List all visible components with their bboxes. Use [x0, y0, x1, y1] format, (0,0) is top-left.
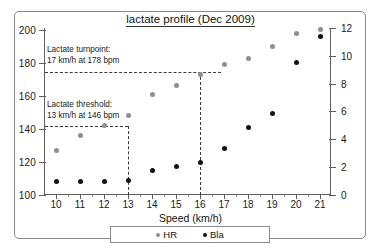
turnpoint-vertical-dashed-line: [200, 72, 201, 195]
legend-item-hr: HR: [156, 229, 177, 240]
y-right-tick: [329, 167, 336, 168]
y-left-tick: [39, 129, 46, 130]
data-point-hr: [222, 62, 227, 67]
chart-legend: HR Bla: [110, 226, 270, 243]
legend-label-bla: Bla: [210, 229, 224, 240]
x-axis-label: 19: [260, 199, 284, 210]
x-axis-minor-tick: [116, 194, 117, 197]
x-axis-label: 18: [236, 199, 260, 210]
y-left-tick: [39, 96, 46, 97]
x-axis-minor-tick: [308, 194, 309, 197]
data-point-hr: [102, 123, 107, 128]
y-right-label: 0: [341, 190, 361, 201]
threshold-vertical-dashed-line: [128, 126, 129, 195]
threshold-horizontal-dashed-line: [45, 126, 128, 127]
legend-item-bla: Bla: [203, 229, 224, 240]
data-point-hr: [78, 133, 83, 138]
x-axis-label: 10: [44, 199, 68, 210]
data-point-hr: [198, 72, 203, 77]
y-left-label: 160: [2, 91, 36, 102]
x-axis-label: 11: [68, 199, 92, 210]
x-axis-minor-tick: [212, 194, 213, 197]
chart-plot-area: lactate profile (Dec 2009) 100 120 140 1…: [0, 0, 381, 252]
data-point-hr: [150, 92, 155, 97]
y-right-tick: [329, 139, 336, 140]
data-point-bla: [54, 179, 59, 184]
legend-label-hr: HR: [163, 229, 177, 240]
x-axis-line: [44, 194, 330, 195]
y-left-label: 180: [2, 58, 36, 69]
y-left-label: 120: [2, 157, 36, 168]
lactate-threshold-line2: 13 km/h at 146 bpm: [47, 111, 119, 122]
x-axis-minor-tick: [260, 194, 261, 197]
x-axis-minor-tick: [140, 194, 141, 197]
data-point-hr: [294, 31, 299, 36]
lactate-turnpoint-line2: 17 km/h at 178 bpm: [47, 56, 119, 67]
data-point-bla: [198, 160, 203, 165]
legend-marker-hr-icon: [156, 233, 160, 237]
x-axis-label: 17: [212, 199, 236, 210]
chart-title: lactate profile (Dec 2009): [0, 13, 381, 25]
y-left-tick: [39, 162, 46, 163]
y-right-label: 12: [341, 23, 361, 34]
data-point-hr: [318, 27, 323, 32]
chart-title-text: lactate profile (Dec 2009): [126, 13, 254, 27]
x-axis-minor-tick: [284, 194, 285, 197]
data-point-bla: [126, 178, 131, 183]
x-axis-label: 13: [116, 199, 140, 210]
lactate-threshold-line1: Lactate threshold:: [47, 100, 119, 111]
x-axis-minor-tick: [164, 194, 165, 197]
y-right-tick: [329, 56, 336, 57]
y-left-tick: [39, 63, 46, 64]
lactate-turnpoint-annotation: Lactate turnpoint: 17 km/h at 178 bpm: [47, 45, 119, 66]
x-axis-label: 16: [188, 199, 212, 210]
x-axis-label: 12: [92, 199, 116, 210]
y-right-label: 4: [341, 134, 361, 145]
y-left-label: 200: [2, 25, 36, 36]
x-axis-minor-tick: [188, 194, 189, 197]
y-right-tick: [329, 195, 336, 196]
data-point-bla: [246, 125, 251, 130]
data-point-bla: [102, 179, 107, 184]
data-point-bla: [150, 168, 155, 173]
y-right-tick: [329, 111, 336, 112]
y-right-tick: [329, 84, 336, 85]
data-point-bla: [294, 60, 299, 65]
data-point-hr: [270, 44, 275, 49]
y-right-label: 10: [341, 51, 361, 62]
x-axis-label: 20: [284, 199, 308, 210]
data-point-bla: [222, 146, 227, 151]
lactate-threshold-annotation: Lactate threshold: 13 km/h at 146 bpm: [47, 100, 119, 121]
data-point-bla: [270, 111, 275, 116]
data-point-hr: [54, 148, 59, 153]
y-right-label: 6: [341, 106, 361, 117]
x-axis-label: 15: [164, 199, 188, 210]
y-left-label: 140: [2, 124, 36, 135]
x-axis-minor-tick: [68, 194, 69, 197]
x-axis-label: 14: [140, 199, 164, 210]
data-point-bla: [174, 164, 179, 169]
y-right-tick: [329, 28, 336, 29]
y-right-label: 2: [341, 162, 361, 173]
data-point-hr: [174, 83, 179, 88]
data-point-bla: [78, 179, 83, 184]
x-axis-minor-tick: [236, 194, 237, 197]
y-left-tick: [39, 30, 46, 31]
data-point-hr: [246, 56, 251, 61]
data-point-bla: [318, 34, 323, 39]
y-right-label: 8: [341, 79, 361, 90]
turnpoint-horizontal-dashed-line: [45, 72, 221, 73]
y-axis-left-line: [44, 28, 45, 195]
legend-marker-bla-icon: [203, 233, 207, 237]
data-point-hr: [126, 113, 131, 118]
x-axis-title: Speed (km/h): [0, 212, 381, 224]
y-left-tick: [39, 195, 46, 196]
y-left-label: 100: [2, 190, 36, 201]
lactate-turnpoint-line1: Lactate turnpoint:: [47, 45, 119, 56]
x-axis-label: 21: [308, 199, 332, 210]
x-axis-minor-tick: [92, 194, 93, 197]
